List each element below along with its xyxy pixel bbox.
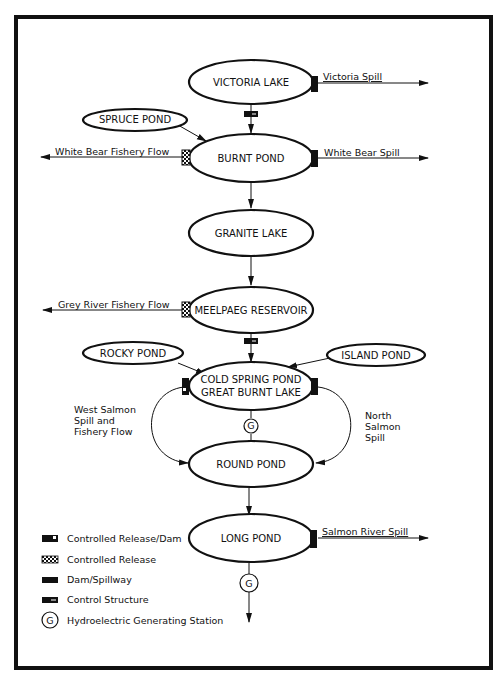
dam-spillway-icon	[311, 378, 318, 395]
label-north-salmon-3: Spill	[365, 432, 385, 443]
svg-text:Controlled Release: Controlled Release	[67, 554, 156, 565]
label-west-salmon-1: West Salmon	[74, 404, 136, 415]
dam-spillway-icon	[311, 76, 318, 92]
svg-text:G: G	[245, 578, 252, 589]
label-white-bear-spill: White Bear Spill	[324, 147, 400, 158]
svg-text:Control Structure: Control Structure	[67, 594, 149, 605]
label-north-salmon-1: North	[365, 410, 392, 421]
label-granite-lake: GRANITE LAKE	[215, 228, 288, 239]
label-spruce-pond: SPRUCE POND	[99, 114, 172, 125]
controlled-release-icon	[182, 302, 190, 317]
label-island-pond: ISLAND POND	[341, 350, 411, 361]
svg-text:G: G	[247, 420, 254, 431]
node-cold-spring-pond	[189, 362, 313, 410]
label-meelpaeg-reservoir: MEELPAEG RESERVOIR	[194, 305, 307, 316]
label-long-pond: LONG POND	[221, 533, 282, 544]
label-victoria-lake: VICTORIA LAKE	[213, 77, 289, 88]
label-cold-spring-pond: COLD SPRING POND	[200, 374, 301, 385]
label-west-salmon-2: Spill and	[74, 415, 115, 426]
generating-station-icon: G	[244, 419, 258, 433]
label-white-bear-fishery-flow: White Bear Fishery Flow	[55, 146, 169, 157]
dam-spillway-icon	[311, 150, 318, 167]
legend-item-dam-spillway: Dam/Spillway	[42, 574, 132, 585]
label-round-pond: ROUND POND	[216, 459, 286, 470]
label-victoria-spill: Victoria Spill	[323, 71, 382, 82]
label-north-salmon-2: Salmon	[365, 421, 401, 432]
legend-item-controlled-release: Controlled Release	[42, 554, 156, 565]
svg-text:Dam/Spillway: Dam/Spillway	[67, 574, 132, 585]
controlled-release-dam-icon	[182, 378, 189, 395]
control-structure-icon	[244, 338, 258, 344]
label-burnt-pond: BURNT POND	[218, 153, 285, 164]
legend-item-control-structure: Control Structure	[42, 594, 149, 605]
label-salmon-river-spill: Salmon River Spill	[322, 526, 408, 537]
controlled-release-icon	[182, 150, 190, 165]
generating-station-icon: G	[240, 574, 258, 592]
label-rocky-pond: ROCKY POND	[100, 348, 167, 359]
dam-spillway-icon	[310, 530, 317, 548]
flow-diagram: VICTORIA LAKE SPRUCE POND BURNT POND GRA…	[0, 0, 502, 681]
svg-text:G: G	[46, 615, 53, 626]
legend-item-controlled-release-dam: Controlled Release/Dam	[42, 533, 182, 544]
label-grey-river-fishery-flow: Grey River Fishery Flow	[58, 299, 170, 310]
control-structure-icon	[244, 111, 258, 117]
svg-text:Controlled Release/Dam: Controlled Release/Dam	[67, 533, 182, 544]
label-west-salmon-3: Fishery Flow	[74, 426, 133, 437]
svg-text:Hydroelectric Generating Stati: Hydroelectric Generating Station	[67, 615, 223, 626]
label-great-burnt-lake: GREAT BURNT LAKE	[201, 387, 301, 398]
legend-item-generating-station: G Hydroelectric Generating Station	[42, 612, 223, 628]
